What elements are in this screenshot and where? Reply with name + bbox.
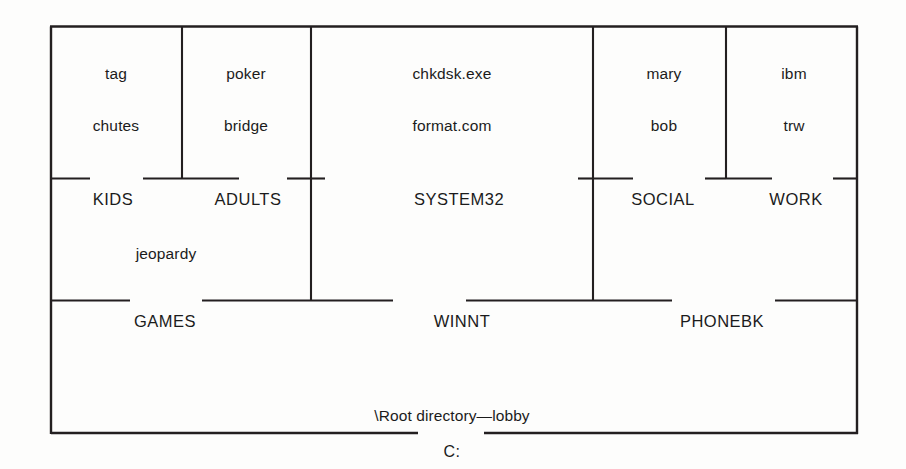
room-label-kids: KIDS [93,190,134,208]
room-label-phonebk: PHONEBK [680,312,764,330]
file-label-mary: mary [646,65,681,82]
lobby-caption: \Root directory—lobby [374,407,530,424]
file-label-format: format.com [412,117,491,134]
file-label-trw: trw [783,117,805,134]
room-label-games: GAMES [134,312,196,330]
file-label-chutes: chutes [93,117,140,134]
floorplan-svg: tag chutes poker bridge chkdsk.exe forma… [0,0,906,469]
room-label-adults: ADULTS [215,190,282,208]
file-label-ibm: ibm [781,65,806,82]
file-label-chkdsk: chkdsk.exe [412,65,491,82]
room-label-system32: SYSTEM32 [414,190,504,208]
room-label-social: SOCIAL [631,190,695,208]
file-label-jeopardy: jeopardy [135,245,197,262]
room-label-work: WORK [769,190,822,208]
file-label-bob: bob [651,117,677,134]
room-label-winnt: WINNT [434,312,491,330]
file-label-tag: tag [105,65,127,82]
file-label-bridge: bridge [224,117,268,134]
file-label-poker: poker [226,65,266,82]
drive-label: C: [444,443,461,460]
floorplan-diagram: tag chutes poker bridge chkdsk.exe forma… [0,0,906,469]
